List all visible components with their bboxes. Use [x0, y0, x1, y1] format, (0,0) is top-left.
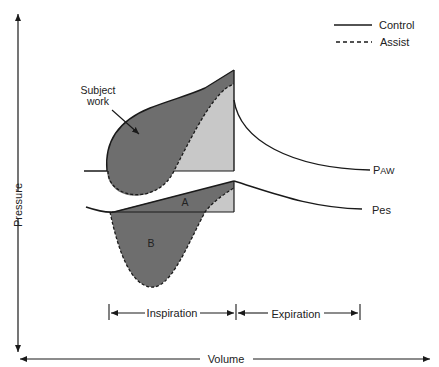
- subject-work-label-line2: work: [86, 95, 110, 107]
- legend-control-label: Control: [379, 19, 414, 31]
- pressure-axis-label: Pressure: [12, 183, 24, 227]
- area-b: [110, 212, 205, 287]
- area-a-label: A: [181, 196, 188, 208]
- diagram-canvas: Pressure Volume Control Assist PAW Subje…: [0, 0, 439, 367]
- area-b-label: B: [147, 237, 154, 249]
- pes-loop: [86, 181, 362, 287]
- legend-assist-label: Assist: [380, 36, 409, 48]
- paw-label: PAW: [373, 164, 395, 176]
- inspiration-label: Inspiration: [147, 307, 198, 319]
- pes-label: Pes: [372, 204, 391, 216]
- legend: Control Assist: [334, 19, 414, 48]
- volume-axis-label: Volume: [208, 353, 245, 365]
- paw-loop: [84, 70, 370, 196]
- expiration-label: Expiration: [272, 308, 321, 320]
